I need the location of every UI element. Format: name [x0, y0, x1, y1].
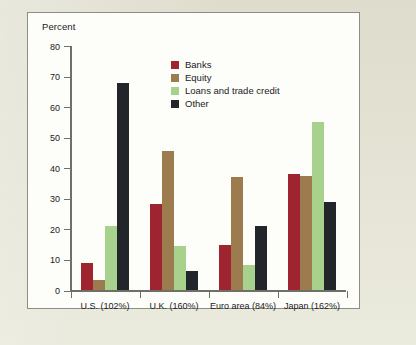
legend-item: Other: [171, 97, 280, 110]
bar: [186, 271, 198, 291]
legend-swatch-icon: [171, 87, 179, 95]
chart-legend: BanksEquityLoans and trade creditOther: [171, 58, 280, 110]
bar: [150, 204, 162, 290]
bar: [174, 246, 186, 290]
bar: [117, 83, 129, 291]
bar: [324, 202, 336, 290]
bar: [255, 226, 267, 290]
bar: [81, 263, 93, 291]
bar: [231, 177, 243, 290]
plot-area: Percent 01020304050607080 U.S. (102%)U.K…: [28, 13, 359, 308]
figure-panel: Percent 01020304050607080 U.S. (102%)U.K…: [27, 12, 360, 309]
legend-label: Banks: [185, 59, 211, 70]
legend-swatch-icon: [171, 74, 179, 82]
legend-item: Equity: [171, 71, 280, 84]
legend-label: Loans and trade credit: [185, 85, 280, 96]
bar: [288, 174, 300, 290]
legend-item: Banks: [171, 58, 280, 71]
legend-item: Loans and trade credit: [171, 84, 280, 97]
x-group-label: U.S. (102%): [80, 301, 129, 311]
bar: [105, 226, 117, 290]
legend-label: Other: [185, 98, 209, 109]
x-group-label: U.K. (160%): [149, 301, 198, 311]
bar: [300, 176, 312, 291]
legend-swatch-icon: [171, 100, 179, 108]
bar: [219, 245, 231, 290]
x-group-label: Euro area (84%): [210, 301, 276, 311]
legend-swatch-icon: [171, 61, 179, 69]
x-group-label: Japan (162%): [284, 301, 340, 311]
bar: [243, 265, 255, 291]
bar: [93, 280, 105, 291]
bar: [312, 122, 324, 291]
bar: [162, 151, 174, 290]
legend-label: Equity: [185, 72, 211, 83]
